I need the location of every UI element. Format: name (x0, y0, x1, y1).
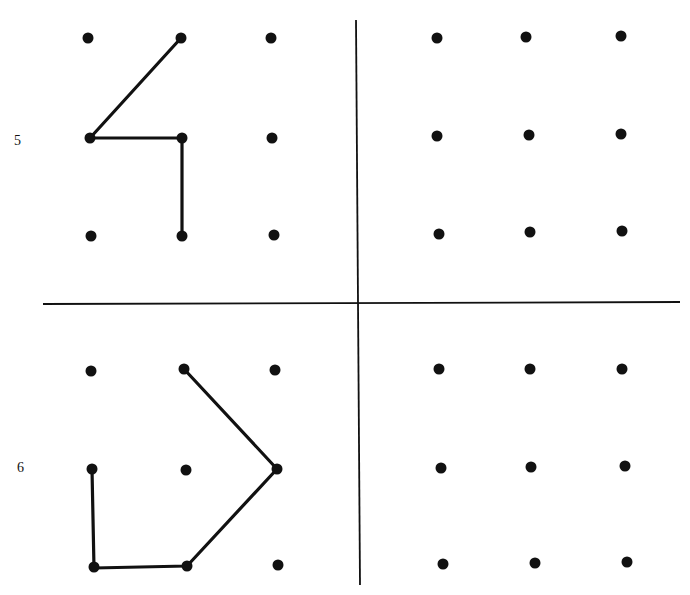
grid-dot (87, 464, 98, 475)
grid-dot (616, 129, 627, 140)
grid-dot (526, 462, 537, 473)
connecting-path (90, 38, 182, 236)
grid-dot (86, 231, 97, 242)
grid-dot (266, 33, 277, 44)
answer-grid-5 (432, 31, 628, 240)
grid-dot (530, 558, 541, 569)
grid-dot (521, 32, 532, 43)
grid-dot (438, 559, 449, 570)
grid-dot (620, 461, 631, 472)
answer-grid-6 (434, 364, 633, 570)
grid-dot (83, 33, 94, 44)
grid-dot (525, 227, 536, 238)
grid-dot (434, 364, 445, 375)
grid-dot (616, 31, 627, 42)
grid-dot (269, 230, 280, 241)
grid-dot (273, 560, 284, 571)
grid-dot (525, 364, 536, 375)
grid-dot (272, 464, 283, 475)
grid-dot (179, 364, 190, 375)
problem-number-5: 5 (14, 133, 21, 149)
grid-dot (181, 465, 192, 476)
example-grid-6 (86, 364, 284, 573)
grid-dot (89, 562, 100, 573)
grid-dot (86, 366, 97, 377)
grid-dot (622, 557, 633, 568)
grid-dot (176, 33, 187, 44)
grid-dot (432, 33, 443, 44)
grid-dot (432, 131, 443, 142)
grid-dot (177, 231, 188, 242)
horizontal-divider (43, 302, 680, 304)
grid-dot (434, 229, 445, 240)
grid-dot (177, 133, 188, 144)
dot-grid-worksheet (0, 0, 690, 595)
grid-dot (270, 365, 281, 376)
problem-number-6: 6 (17, 460, 24, 476)
grid-dot (617, 364, 628, 375)
example-grid-5 (83, 33, 280, 242)
grid-dot (617, 226, 628, 237)
grid-dot (182, 561, 193, 572)
grid-dot (85, 133, 96, 144)
grid-dot (524, 130, 535, 141)
grid-dot (436, 463, 447, 474)
grid-dot (267, 133, 278, 144)
